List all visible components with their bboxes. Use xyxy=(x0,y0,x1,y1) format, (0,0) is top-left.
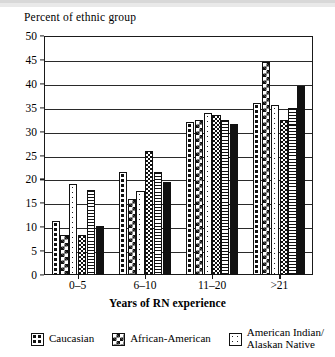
bar-1-3 xyxy=(69,184,77,275)
bar-1-2 xyxy=(60,235,68,275)
bar-3-6 xyxy=(230,124,238,275)
bar-4-4 xyxy=(280,120,288,275)
sparse-dots-swatch-icon xyxy=(229,333,242,346)
legend-item-caucasian: Caucasian xyxy=(31,333,94,346)
checkerboard-swatch-icon xyxy=(112,333,125,346)
bar-3-3 xyxy=(204,113,212,275)
coarse-dots-swatch-icon xyxy=(31,333,44,346)
legend-label-african-american: African-American xyxy=(130,333,211,345)
y-tick-label-40: 40 xyxy=(26,78,38,90)
y-tick-label-0: 0 xyxy=(31,269,37,281)
bar-3-1 xyxy=(186,122,194,275)
y-tick-label-25: 25 xyxy=(26,150,38,162)
bar-1-4 xyxy=(78,235,86,275)
bar-3-5 xyxy=(221,120,229,275)
x-tick-label-4: >21 xyxy=(270,279,288,291)
legend-label-caucasian: Caucasian xyxy=(49,333,94,345)
y-tick-label-10: 10 xyxy=(26,221,38,233)
bar-2-5 xyxy=(154,172,162,275)
bar-2-1 xyxy=(119,172,127,275)
bar-4-1 xyxy=(253,103,261,275)
y-tick-label-5: 5 xyxy=(31,245,37,257)
chart-legend: Caucasian African-American American Indi… xyxy=(0,323,335,355)
bar-2-4 xyxy=(145,151,153,275)
bar-3-4 xyxy=(212,115,220,275)
bar-series-container xyxy=(44,36,313,275)
bar-4-3 xyxy=(271,105,279,275)
x-axis-title: Years of RN experience xyxy=(0,297,335,309)
y-tick-label-15: 15 xyxy=(26,197,38,209)
x-tick-label-1: 0–5 xyxy=(69,279,86,291)
x-tick-label-2: 6–10 xyxy=(133,279,156,291)
bar-1-5 xyxy=(87,190,95,275)
y-tick-label-30: 30 xyxy=(26,126,38,138)
bar-4-2 xyxy=(262,62,270,275)
bar-1-6 xyxy=(96,226,104,275)
y-tick-label-20: 20 xyxy=(26,173,38,185)
x-tick-label-3: 11–20 xyxy=(198,279,226,291)
y-tick-label-35: 35 xyxy=(26,102,38,114)
bar-2-3 xyxy=(136,191,144,275)
x-axis-tick-labels: 0–56–1011–20>21 xyxy=(44,279,313,295)
bar-chart-figure: Percent of ethnic group 0510152025303540… xyxy=(0,0,335,357)
y-tick-label-50: 50 xyxy=(26,30,38,42)
y-tick-label-45: 45 xyxy=(26,54,38,66)
bar-3-2 xyxy=(195,120,203,275)
bar-1-1 xyxy=(52,221,60,275)
bar-4-5 xyxy=(288,108,296,275)
bar-4-6 xyxy=(297,86,305,275)
bar-2-6 xyxy=(163,182,171,275)
legend-item-american-indian-alaskan-native: American Indian/ Alaskan Native xyxy=(229,327,324,351)
bar-2-2 xyxy=(128,199,136,275)
legend-label-american-indian-alaskan-native: American Indian/ Alaskan Native xyxy=(247,327,324,351)
legend-item-african-american: African-American xyxy=(112,333,211,346)
